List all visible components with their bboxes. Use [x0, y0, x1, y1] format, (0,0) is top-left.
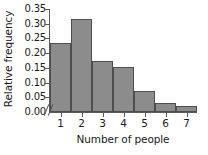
histogram-bar — [155, 103, 176, 112]
y-axis-tick-mark — [45, 9, 50, 10]
x-axis-tick-label: 7 — [183, 118, 190, 129]
bar-series — [50, 9, 197, 112]
y-axis-tick-mark — [45, 38, 50, 39]
x-axis-tick-label: 1 — [57, 118, 64, 129]
y-axis-tick-label: 0.25 — [25, 33, 46, 43]
y-axis-tick-mark — [45, 83, 50, 84]
histogram-bar — [50, 43, 71, 112]
x-axis-tick-label: 3 — [99, 118, 106, 129]
y-axis-tick-mark — [45, 68, 50, 69]
y-axis-tick-labels: 0.000.050.100.150.200.250.300.35 — [16, 9, 46, 113]
relative-frequency-histogram: Relative frequency 0.000.050.100.150.200… — [0, 0, 208, 155]
histogram-bar — [176, 106, 197, 112]
y-axis-tick-label: 0.10 — [25, 78, 46, 88]
y-axis-tick-label: 0.15 — [25, 63, 46, 73]
x-axis-tick-label: 2 — [78, 118, 85, 129]
histogram-bar — [92, 61, 113, 113]
x-axis-title: Number of people — [49, 133, 197, 145]
histogram-bar — [113, 67, 134, 112]
y-axis-tick-label: 0.35 — [25, 4, 46, 14]
y-axis-tick-mark — [45, 53, 50, 54]
axis-break-icon — [43, 104, 57, 117]
y-axis-tick-mark — [45, 24, 50, 25]
y-axis-title-text: Relative frequency — [2, 11, 14, 108]
histogram-bar — [71, 19, 92, 112]
y-axis-title: Relative frequency — [0, 0, 16, 118]
y-axis-tick-label: 0.30 — [25, 19, 46, 29]
y-axis-tick-label: 0.20 — [25, 48, 46, 58]
y-axis-tick-mark — [45, 97, 50, 98]
plot-area: 1234567 — [49, 9, 197, 113]
x-axis-tick-label: 6 — [162, 118, 169, 129]
histogram-bar — [134, 91, 155, 112]
y-axis-tick-label: 0.05 — [25, 92, 46, 102]
x-axis-tick-label: 4 — [120, 118, 127, 129]
x-axis-tick-label: 5 — [141, 118, 148, 129]
